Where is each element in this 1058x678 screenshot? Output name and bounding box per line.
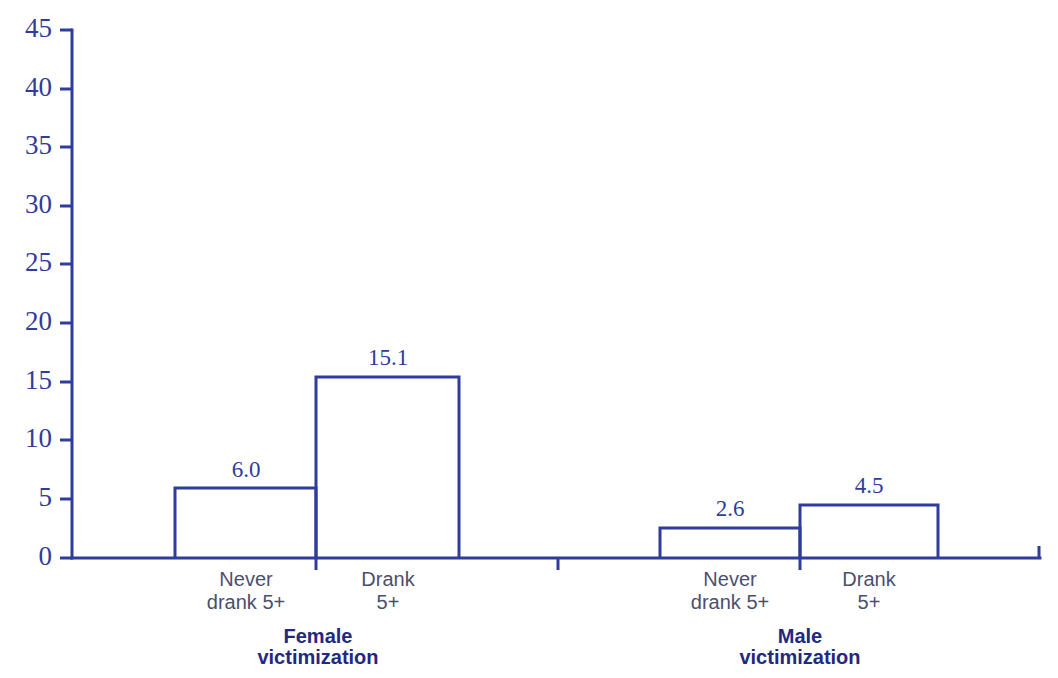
category-label-female-drank-line2: 5+: [377, 591, 400, 613]
category-label-female-drank-line1: Drank: [361, 568, 415, 590]
y-tick-label-15: 15: [25, 365, 52, 395]
bar-female-drank[interactable]: [316, 377, 459, 558]
bar-male-never[interactable]: [660, 528, 800, 558]
category-label-male-never-line1: Never: [703, 568, 757, 590]
y-tick-label-45: 45: [25, 13, 52, 43]
y-tick-label-30: 30: [25, 189, 52, 219]
y-tick-label-20: 20: [25, 306, 52, 336]
y-tick-label-10: 10: [25, 423, 52, 453]
category-label-female-never-line1: Never: [219, 568, 273, 590]
category-label-male-drank-line1: Drank: [842, 568, 896, 590]
group-label-male-line1: Male: [778, 625, 822, 647]
bar-female-never[interactable]: [175, 488, 316, 558]
group-label-female-line2: victimization: [257, 646, 378, 668]
bar-chart: 45 40 35 30 25 20 15 10 5 0 6.0 15.1 2.6…: [0, 0, 1058, 678]
y-tick-label-5: 5: [39, 482, 53, 512]
category-label-male-drank-line2: 5+: [858, 591, 881, 613]
value-label-female-drank: 15.1: [368, 345, 408, 370]
y-tick-label-40: 40: [25, 72, 52, 102]
value-label-male-never: 2.6: [716, 496, 745, 521]
y-tick-label-0: 0: [39, 541, 53, 571]
category-label-male-never-line2: drank 5+: [691, 591, 769, 613]
bar-male-drank[interactable]: [800, 505, 938, 558]
group-label-female-line1: Female: [284, 625, 353, 647]
chart-canvas: 45 40 35 30 25 20 15 10 5 0 6.0 15.1 2.6…: [0, 0, 1058, 678]
value-label-male-drank: 4.5: [855, 473, 884, 498]
value-label-female-never: 6.0: [232, 457, 261, 482]
y-tick-label-35: 35: [25, 130, 52, 160]
y-tick-label-25: 25: [25, 247, 52, 277]
group-label-male-line2: victimization: [739, 646, 860, 668]
category-label-female-never-line2: drank 5+: [207, 591, 285, 613]
